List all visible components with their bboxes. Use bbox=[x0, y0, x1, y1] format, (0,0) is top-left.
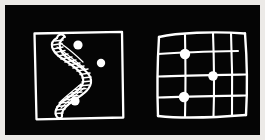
dot-right bbox=[97, 59, 105, 67]
dot-top-left-node bbox=[180, 49, 190, 59]
grid-hline-1 bbox=[158, 51, 238, 54]
dot-upper bbox=[73, 40, 82, 49]
dot-lower bbox=[70, 96, 79, 105]
black-canvas bbox=[5, 5, 260, 135]
dot-bottom-left-node bbox=[179, 92, 189, 102]
dna-panel-svg bbox=[31, 29, 125, 122]
figure-root: Two hand-drawn white sketches on black b… bbox=[0, 0, 265, 140]
dna-double-helix-panel bbox=[31, 29, 125, 122]
dot-center-node bbox=[208, 71, 218, 81]
grid-panel-svg bbox=[155, 29, 251, 121]
grid-lattice-panel bbox=[155, 29, 251, 121]
